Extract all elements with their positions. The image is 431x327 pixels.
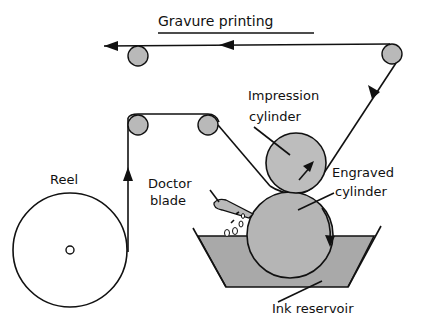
- top-right-roller: [382, 44, 402, 64]
- doctor-blade-label-2: blade: [150, 193, 186, 208]
- diagram-title: Gravure printing: [158, 13, 273, 29]
- diagram-canvas: Gravure printing Reel Doctor blade Imp: [0, 0, 431, 327]
- top-left-roller: [128, 46, 148, 66]
- web-direction-arrow-icon: [219, 40, 234, 50]
- impression-label-2: cylinder: [249, 109, 302, 124]
- ink-reservoir-label: Ink reservoir: [272, 301, 354, 316]
- reel-hub: [66, 246, 74, 254]
- web-exit-arrow-icon: [104, 41, 118, 51]
- web-up-diagonal: [322, 63, 396, 176]
- gravure-printing-diagram: Gravure printing Reel Doctor blade Imp: [0, 0, 431, 327]
- ink-drop: [241, 214, 244, 219]
- ink-drop: [225, 230, 230, 237]
- engraved-label-1: Engraved: [332, 165, 394, 180]
- doctor-blade: [214, 199, 253, 218]
- doctor-blade-label-1: Doctor: [148, 176, 192, 191]
- web-up-arrow-icon: [368, 85, 380, 99]
- guide-roller-2: [198, 115, 218, 135]
- ink-drop: [233, 228, 238, 235]
- engraved-cylinder: [247, 192, 333, 278]
- top-web-line: [104, 44, 390, 46]
- web-vertical-arrow-icon: [123, 167, 133, 181]
- doctor-blade-leader: [210, 190, 219, 202]
- impression-cylinder: [266, 133, 326, 193]
- guide-roller-1: [128, 115, 148, 135]
- ink-drop: [239, 221, 243, 227]
- reel-label: Reel: [50, 172, 78, 187]
- ink-splash: [231, 220, 234, 223]
- engraved-label-2: cylinder: [335, 184, 388, 199]
- impression-label-1: Impression: [248, 88, 319, 103]
